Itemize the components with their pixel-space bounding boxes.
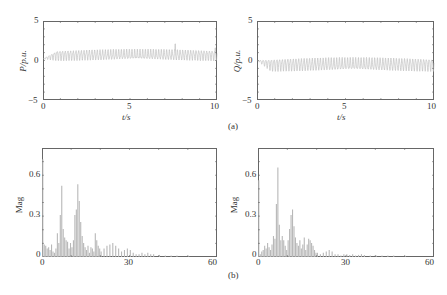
x-tick-label: 10 (427, 102, 436, 111)
subfigure-label-a: (a) (228, 121, 238, 131)
y-tick-label: 0.6 (245, 170, 256, 179)
y-axis-title-text: Q/p.u. (232, 50, 242, 73)
x-axis-title-text: t/s (337, 112, 346, 122)
x-tick-label: 5 (342, 102, 347, 111)
p-time-chart: 5 0 −5 0 5 10 t/s P/p.u. (0, 0, 225, 130)
q-spectrum-bars (225, 140, 447, 275)
y-tick-label: 0.6 (29, 170, 40, 179)
y-tick-label: 0.3 (245, 210, 256, 219)
q-spectrum-chart: 0.6 0.3 0 0 30 60 Mag (225, 140, 447, 275)
x-tick-label: 60 (425, 258, 434, 267)
q-time-chart: 5 0 −5 0 5 10 t/s Q/p.u. (225, 0, 447, 130)
y-axis-title: Mag (229, 190, 239, 220)
x-tick-label: 30 (341, 258, 350, 267)
x-tick-label: 60 (208, 258, 217, 267)
p-spectrum-chart: 0.6 0.3 0 0 30 60 Mag (0, 140, 225, 275)
x-tick-label: 0 (40, 258, 45, 267)
y-tick-label: −5 (242, 96, 252, 105)
subfigure-label-b: (b) (228, 270, 239, 280)
y-tick-label: 0 (248, 56, 253, 65)
y-axis-title: Q/p.u. (232, 44, 242, 78)
p-spectrum-bars (0, 140, 225, 275)
x-axis-title-text: t/s (122, 112, 131, 122)
y-tick-label: 0 (34, 56, 39, 65)
y-axis-title: Mag (14, 190, 24, 220)
y-tick-label: 0.3 (29, 210, 40, 219)
x-axis-title: t/s (122, 112, 131, 122)
y-axis-title-text: P/p.u. (18, 50, 28, 72)
y-axis-title: P/p.u. (18, 44, 28, 78)
x-tick-label: 0 (255, 102, 260, 111)
x-tick-label: 30 (124, 258, 133, 267)
y-tick-label: −5 (28, 96, 38, 105)
x-tick-label: 5 (127, 102, 132, 111)
y-tick-label: 5 (34, 16, 39, 25)
x-tick-label: 10 (210, 102, 219, 111)
x-tick-label: 0 (41, 102, 46, 111)
x-tick-label: 0 (256, 258, 261, 267)
x-axis-title: t/s (337, 112, 346, 122)
y-tick-label: 5 (248, 16, 253, 25)
